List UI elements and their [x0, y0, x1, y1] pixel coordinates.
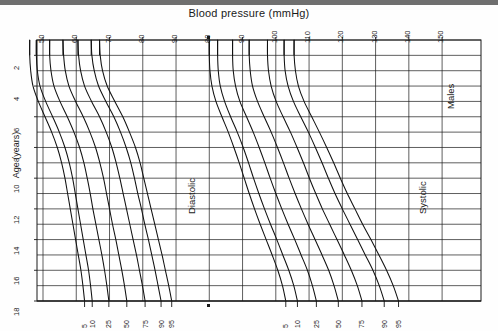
- percentile-label-systolic-5: 5: [282, 324, 289, 328]
- percentile-label-systolic-50: 50: [335, 320, 342, 328]
- x-tick-4: 90: [170, 35, 179, 43]
- y-tick-8: 8: [12, 158, 21, 162]
- systolic-label: Systolic: [417, 181, 428, 214]
- y-tick-14: 14: [12, 246, 21, 254]
- x-tick-12: 150: [436, 30, 445, 43]
- percentile-label-diastolic-95: 95: [168, 320, 175, 328]
- y-tick-16: 16: [12, 277, 21, 285]
- y-tick-18: 18: [12, 308, 21, 316]
- y-tick-6: 6: [12, 128, 21, 132]
- percentile-label-systolic-95: 95: [395, 320, 402, 328]
- percentile-label-diastolic-90: 90: [158, 320, 165, 328]
- x-tick-6: 90: [237, 35, 246, 43]
- males-label: Males: [445, 84, 456, 109]
- x-tick-2: 70: [104, 35, 113, 43]
- blood-pressure-chart: Blood pressure (mmHg) Age (years) 506070…: [0, 0, 498, 331]
- x-tick-9: 120: [336, 30, 345, 43]
- percentile-label-systolic-75: 75: [358, 320, 365, 328]
- y-tick-12: 12: [12, 216, 21, 224]
- y-tick-4: 4: [12, 97, 21, 101]
- plot-area: [0, 0, 498, 331]
- percentile-label-diastolic-75: 75: [142, 320, 149, 328]
- x-tick-5: 80: [203, 35, 212, 43]
- percentile-label-systolic-25: 25: [313, 320, 320, 328]
- percentile-label-systolic-90: 90: [381, 320, 388, 328]
- percentile-label-systolic-10: 10: [294, 320, 301, 328]
- percentile-label-diastolic-5: 5: [81, 324, 88, 328]
- x-tick-11: 140: [403, 30, 412, 43]
- x-tick-8: 110: [303, 31, 312, 43]
- x-tick-7: 100: [270, 30, 279, 43]
- percentile-label-diastolic-50: 50: [123, 320, 130, 328]
- diastolic-label: Diastolic: [186, 178, 197, 214]
- percentile-label-diastolic-25: 25: [105, 320, 112, 328]
- percentile-label-diastolic-10: 10: [89, 320, 96, 328]
- x-tick-3: 80: [137, 35, 146, 43]
- y-tick-2: 2: [12, 66, 21, 70]
- x-tick-10: 130: [370, 30, 379, 43]
- x-tick-1: 60: [70, 35, 79, 43]
- y-tick-10: 10: [12, 185, 21, 193]
- x-tick-0: 50: [37, 35, 46, 43]
